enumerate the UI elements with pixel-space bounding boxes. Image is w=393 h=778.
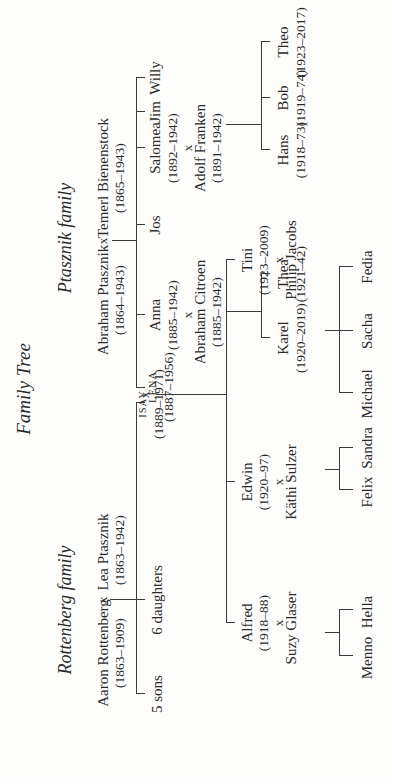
connector-line (136, 402, 137, 694)
person-jos: Jos (148, 215, 163, 234)
dates-temerl: (1865–1943) (113, 143, 127, 213)
connector-line (261, 149, 270, 150)
person-willy: Willy (148, 61, 163, 95)
person-michael: Michael (360, 369, 375, 418)
connector-line (226, 124, 261, 125)
connector-line (339, 609, 353, 610)
connector-line (136, 111, 145, 112)
connector-line (339, 655, 353, 656)
ptasznik-family-label: Ptasznik family (56, 183, 74, 294)
person-edwin: Edwin (240, 462, 255, 501)
person-alfred: Alfred (240, 603, 255, 642)
connector-line (261, 42, 262, 150)
person-sacha: Sacha (360, 313, 375, 349)
person-lea-ptasznik: Lea Ptasznik (96, 513, 111, 590)
dates-hans: (1918–73) (294, 122, 308, 178)
marriage-mark: x (96, 597, 109, 604)
dates-karel: (1920–2019) (294, 303, 308, 373)
connector-line (339, 489, 353, 490)
connector-line (226, 259, 235, 260)
connector-line (156, 394, 226, 395)
person-tini: Tini (240, 248, 255, 272)
connector-line (136, 77, 145, 78)
connector-line (261, 337, 270, 338)
connector-line (112, 240, 136, 241)
dates-anna: (1885–1942) (166, 280, 180, 350)
person-felix: Felix (360, 477, 375, 508)
person-karel: Karel (276, 321, 291, 354)
dates-tini: (1923–2009) (257, 225, 271, 295)
connector-line (110, 599, 145, 600)
person-fedia: Fedia (360, 250, 375, 283)
person-hella: Hella (360, 596, 375, 628)
person-sandra: Sandra (360, 427, 375, 469)
person-theo: Theo (276, 27, 291, 58)
person-adolf-franken: Adolf Franken (193, 104, 208, 192)
person-salomea: Salomea (148, 122, 163, 174)
person-6-daughters: 6 daughters (150, 565, 165, 635)
dates-abraham-citroen: (1885–1942) (210, 277, 224, 347)
dates-edwin: (1920–97) (257, 454, 271, 510)
dates-alfred: (1918–88) (257, 595, 271, 651)
dates-aaron: (1863–1909) (113, 618, 127, 688)
connector-line (226, 260, 227, 623)
person-suzy-glaser: Suzy Glaser (284, 592, 299, 665)
person-temerl-bienenstock: Temerl Bienenstock (96, 118, 111, 238)
marriage-mark: x (96, 238, 109, 245)
connector-line (325, 330, 353, 331)
connector-line (226, 622, 235, 623)
dates-lea: (1863–1942) (113, 515, 127, 585)
person-bob: Bob (276, 85, 291, 110)
connector-line (226, 481, 235, 482)
person-hans: Hans (276, 135, 291, 166)
person-abraham-ptasznik: Abraham Ptasznik (96, 245, 111, 355)
connector-line (325, 632, 339, 633)
person-aaron-rottenberg: Aaron Rottenberg (96, 599, 111, 707)
person-5-sons: 5 sons (150, 675, 165, 713)
connector-line (136, 147, 145, 148)
connector-line (136, 314, 145, 315)
dates-theo: (1923–2017) (294, 7, 308, 77)
person-lena: LENA (148, 371, 159, 403)
connector-line (136, 387, 145, 388)
rottenberg-family-label: Rottenberg family (56, 546, 74, 675)
connector-line (339, 447, 353, 448)
person-jim: Jim (148, 101, 163, 123)
family-tree-diagram: Family Tree Rottenberg family Ptasznik f… (0, 0, 393, 778)
person-kathi-sulzer: Käthi Sulzer (284, 444, 299, 519)
connector-line (339, 266, 353, 267)
dates-bob: (1919–74) (294, 70, 308, 126)
person-abraham-citroen: Abraham Citroen (193, 260, 208, 365)
connector-line (339, 610, 340, 656)
diagram-title: Family Tree (14, 343, 33, 435)
dates-lena: (1887–1956) (162, 352, 176, 422)
connector-line (226, 311, 261, 312)
person-menno: Menno (360, 637, 375, 680)
connector-line (136, 77, 137, 388)
dates-salomea: (1892–1942) (166, 113, 180, 183)
connector-line (136, 693, 145, 694)
connector-line (339, 392, 353, 393)
connector-line (325, 469, 339, 470)
person-philip-jacobs: Philip Jacobs (284, 220, 299, 300)
person-anna: Anna (148, 299, 163, 332)
dates-adolf-franken: (1891–1942) (210, 113, 224, 183)
connector-line (261, 97, 270, 98)
dates-abraham-ptasznik: (1864–1943) (113, 265, 127, 335)
connector-line (136, 224, 145, 225)
connector-line (339, 448, 340, 490)
connector-line (261, 41, 270, 42)
